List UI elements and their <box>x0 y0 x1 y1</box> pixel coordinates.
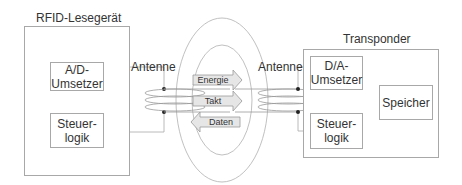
arrow-label-energie: Energie <box>197 75 228 85</box>
transponder-control-line2: logik <box>324 131 349 145</box>
reader-box <box>24 26 130 176</box>
reader-control-line1: Steuer- <box>57 117 96 131</box>
transponder-antenna-node-top <box>296 87 300 91</box>
reader-ad-converter-line1: A/D- <box>65 63 89 77</box>
reader-control-logic: Steuer- logik <box>50 113 104 148</box>
reader-control-line2: logik <box>65 131 90 145</box>
reader-ad-converter-line2: Umsetzer <box>51 77 102 91</box>
transponder-antenna-label: Antenne <box>258 60 303 74</box>
reader-title: RFID-Lesegerät <box>36 11 121 25</box>
transponder-da-converter-line1: D/A- <box>325 59 349 73</box>
arrow-label-daten: Daten <box>209 117 233 127</box>
transponder-control-line1: Steuer- <box>317 117 356 131</box>
transponder-memory-label: Speicher <box>382 96 429 110</box>
reader-ad-converter: A/D- Umsetzer <box>50 62 104 91</box>
transponder-control-logic: Steuer- logik <box>310 113 363 149</box>
transponder-memory: Speicher <box>379 85 433 120</box>
transponder-da-converter-line2: Umsetzer <box>311 73 362 87</box>
transponder-antenna-node-bottom <box>296 110 300 114</box>
transponder-da-converter: D/A- Umsetzer <box>310 56 363 90</box>
reader-antenna-label: Antenne <box>131 60 176 74</box>
arrow-label-takt: Takt <box>205 96 222 106</box>
transponder-title: Transponder <box>343 32 411 46</box>
